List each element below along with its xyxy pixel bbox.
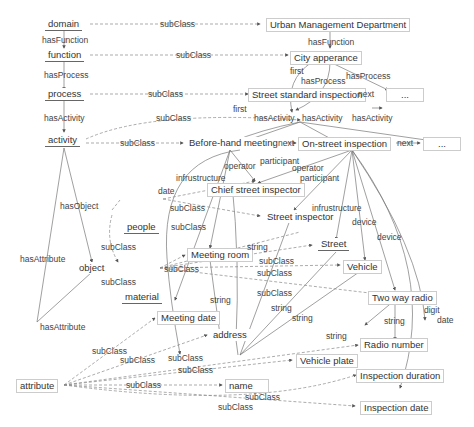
label-device-1: device (352, 217, 377, 227)
ontology-diagram: domain function process activity object … (0, 0, 474, 427)
label-subclass-street: subClass (259, 256, 294, 266)
node-name: name (225, 379, 269, 393)
label-subclass-name: subClass (126, 380, 161, 390)
label-string-4: string (292, 313, 313, 323)
label-digit: digit (424, 305, 440, 315)
label-device-2: device (377, 232, 402, 242)
label-string-5: string (384, 316, 405, 326)
label-subclass-process: subClass (148, 89, 183, 99)
node-street: Street (318, 238, 349, 251)
node-meeting-room: Meeting room (187, 248, 253, 262)
label-subclass-people-object: subClass (101, 242, 136, 252)
label-hasattribute-2: hasAttribute (40, 322, 85, 332)
label-subclass-domain: subClass (160, 19, 195, 29)
label-subclass-inspdate: subClass (218, 402, 253, 412)
label-hasfunction-right: hasFunction (308, 37, 354, 47)
label-next-2: next (278, 138, 294, 148)
node-process: process (45, 88, 84, 101)
node-city-apperance: City apperance (290, 51, 362, 65)
node-street-standard-inspection: Street standard inspection (248, 88, 366, 102)
label-date-2: date (437, 315, 454, 325)
label-subclass-activity: subClass (120, 138, 155, 148)
label-next-3: next (397, 138, 413, 148)
node-meeting-date: Meeting date (157, 311, 220, 325)
node-before-hand-meeting: Before-hand meeting (186, 137, 281, 149)
label-subclass-radionumber: subClass (168, 353, 203, 363)
node-people: people (124, 221, 159, 234)
node-object: object (76, 262, 107, 274)
node-address: address (210, 329, 250, 341)
label-hasprocess-1: hasProcess (301, 76, 345, 86)
label-infrustructure-2: infrustructure (312, 203, 362, 213)
label-hasactivity-2: hasActivity (302, 113, 343, 123)
node-on-street-inspection: On-street inspection (298, 137, 391, 151)
label-next-1: next (358, 89, 374, 99)
node-attribute: attribute (16, 379, 58, 393)
label-subclass-address: subClass (120, 355, 155, 365)
label-operator-1: operator (224, 161, 256, 171)
label-date-1: date (158, 186, 175, 196)
label-string-1: string (247, 242, 268, 252)
label-hasprocess-2: hasProcess (346, 71, 390, 81)
label-hasattribute-1: hasAttribute (20, 254, 65, 264)
label-hasactivity-3: hasActivity (352, 113, 393, 123)
label-subclass-activity-curve: subClass (156, 113, 191, 123)
label-hasfunction-left: hasFunction (42, 35, 88, 45)
node-two-way-radio: Two way radio (368, 291, 437, 305)
label-subclass-meetingroom: subClass (164, 264, 199, 274)
label-participant-2: participant (300, 173, 339, 183)
node-ellipsis-1: ... (386, 88, 424, 102)
node-vehicle-plate: Vehicle plate (296, 354, 358, 368)
label-string-2: string (210, 295, 231, 305)
label-first-2: first (233, 104, 247, 114)
node-urban-management-department: Urban Management Department (266, 18, 410, 32)
label-hasobject: hasObject (60, 201, 98, 211)
node-inspection-date: Inspection date (360, 401, 432, 415)
label-hasactivity-1: hasActivity (254, 113, 295, 123)
node-ellipsis-2: ... (423, 137, 461, 151)
label-hasprocess-left: hasProcess (44, 70, 88, 80)
label-string-3: string (271, 303, 292, 313)
label-subclass-material-object: subClass (101, 277, 136, 287)
label-subclass-vehicle: subClass (257, 268, 292, 278)
node-activity: activity (45, 134, 80, 147)
node-inspection-duration: Inspection duration (356, 369, 444, 383)
node-vehicle: Vehicle (343, 260, 382, 274)
label-operator-2: operator (292, 163, 324, 173)
label-subclass-chief: subClass (170, 203, 205, 213)
label-subclass-duration: subClass (245, 392, 280, 402)
label-subclass-function: subClass (176, 50, 211, 60)
label-infrustructure-1: infrustructure (176, 173, 226, 183)
node-function: function (45, 49, 84, 62)
node-chief-street-inspector: Chief street inspector (207, 183, 305, 197)
label-subclass-streetinsp: subClass (171, 222, 206, 232)
label-subclass-radio: subClass (257, 288, 292, 298)
label-first-1: first (290, 66, 304, 76)
label-subclass-vehicleplate: subClass (178, 365, 213, 375)
label-string-6: string (326, 331, 347, 341)
diagram-edges (0, 0, 474, 427)
node-material: material (122, 291, 162, 304)
node-radio-number: Radio number (360, 338, 428, 352)
label-hasactivity-left: hasActivity (44, 113, 85, 123)
node-domain: domain (45, 18, 82, 31)
